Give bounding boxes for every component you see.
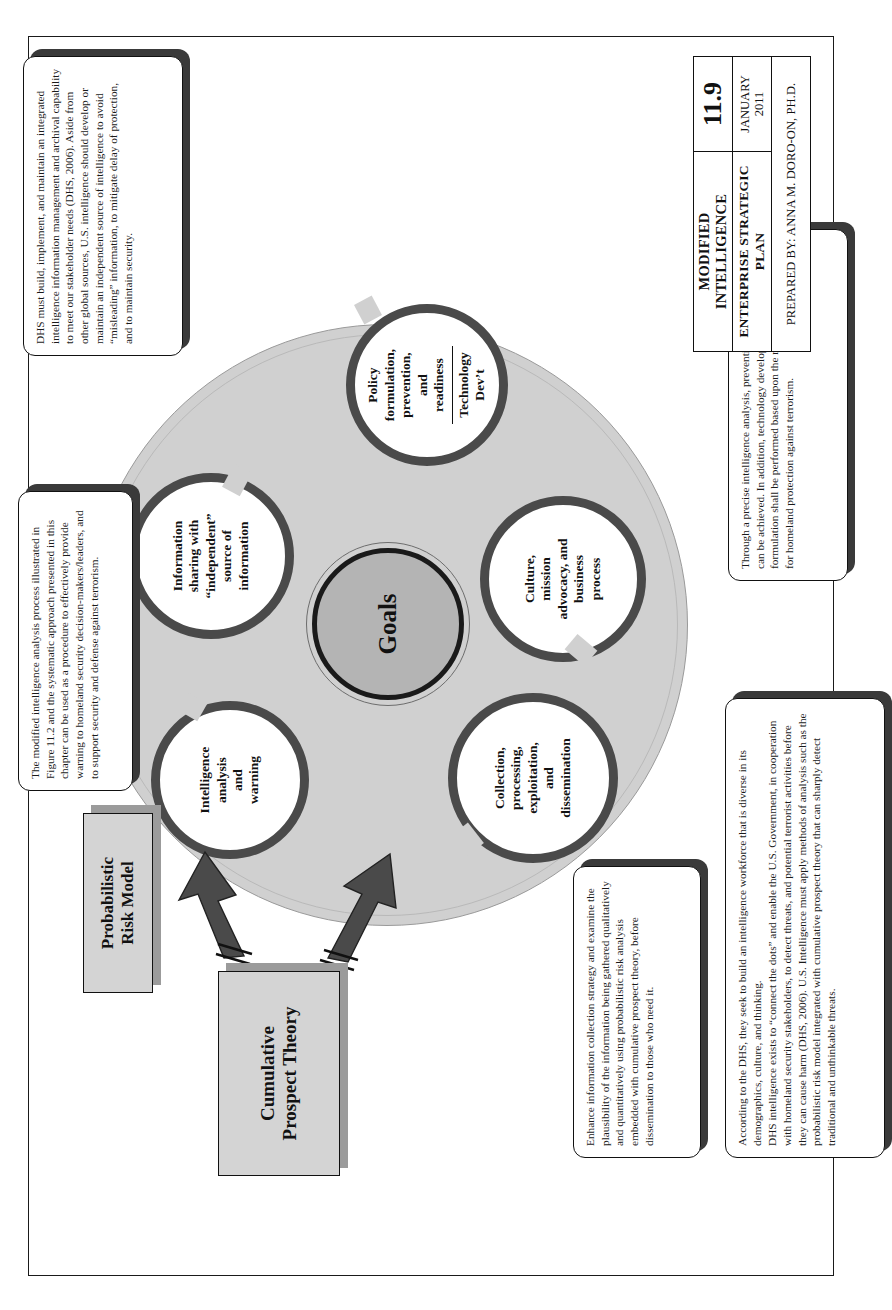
callout-body: Enhance information collection strategy … xyxy=(573,866,701,1158)
title-block-subtitle-cell: ENTERPRISE STRATEGIC PLAN xyxy=(733,151,771,351)
callout-according-to-the-dhs[interactable]: According to the DHS, they seek to build… xyxy=(725,698,885,1158)
callout-text: Enhance information collection strategy … xyxy=(583,878,656,1146)
callout-text-paragraph-2: DHS intelligence exists to “connect the … xyxy=(765,710,838,1146)
callout-body: DHS must build, implement, and maintain … xyxy=(23,56,183,356)
plaque-cumulative-prospect-theory[interactable]: Cumulative Prospect Theory xyxy=(218,971,340,1176)
callout-text: The modified intelligence analysis proce… xyxy=(28,503,101,779)
figure-canvas: Intelligence analysis and warning Collec… xyxy=(28,36,834,1276)
plaque-body: Cumulative Prospect Theory xyxy=(218,971,340,1176)
figure-number: 11.9 xyxy=(698,82,728,126)
title-block-subtitle: ENTERPRISE STRATEGIC PLAN xyxy=(736,160,768,343)
title-block-row-prepared-by: PREPARED BY: ANNA M. DORO-ON, PH.D. xyxy=(772,57,810,351)
arrow-to-collection-processing xyxy=(328,854,396,962)
callout-text: DHS must build, implement, and maintain … xyxy=(33,68,136,344)
title-block-title: MODIFIED INTELLIGENCE xyxy=(696,160,730,343)
plaque-body: Probabilistic Risk Model xyxy=(83,813,153,993)
arrow-to-intelligence-analysis xyxy=(179,852,244,958)
callout-text-paragraph-1: According to the DHS, they seek to build… xyxy=(735,710,764,1146)
title-block-title-cell: MODIFIED INTELLIGENCE xyxy=(694,151,732,351)
callout-dhs-integrated-intelligence[interactable]: DHS must build, implement, and maintain … xyxy=(23,56,183,356)
title-block-prepared-by-cell: PREPARED BY: ANNA M. DORO-ON, PH.D. xyxy=(772,57,810,351)
title-block-date-month: JANUARY xyxy=(738,75,752,133)
callout-body: The modified intelligence analysis proce… xyxy=(18,491,133,791)
callout-enhance-information-collection[interactable]: Enhance information collection strategy … xyxy=(573,866,701,1158)
title-block-date-year: 2011 xyxy=(752,92,766,117)
title-block-row-title: MODIFIED INTELLIGENCE 11.9 xyxy=(694,57,733,351)
title-block-prepared-by: PREPARED BY: ANNA M. DORO-ON, PH.D. xyxy=(784,83,799,326)
callout-body: According to the DHS, they seek to build… xyxy=(725,698,885,1158)
plaque-label: Probabilistic Risk Model xyxy=(98,857,138,949)
plaque-label: Cumulative Prospect Theory xyxy=(257,1007,302,1141)
rotated-page-container: Intelligence analysis and warning Collec… xyxy=(28,36,834,1276)
plaque-probabilistic-risk-model[interactable]: Probabilistic Risk Model xyxy=(83,813,153,993)
title-block-row-subtitle: ENTERPRISE STRATEGIC PLAN JANUARY 2011 xyxy=(733,57,772,351)
title-block-figure-number-cell: 11.9 xyxy=(694,57,732,151)
title-block-date-cell: JANUARY 2011 xyxy=(733,57,771,151)
callout-modified-intelligence-process[interactable]: The modified intelligence analysis proce… xyxy=(18,491,133,791)
title-block: MODIFIED INTELLIGENCE 11.9 ENTERPRISE ST… xyxy=(693,56,811,352)
